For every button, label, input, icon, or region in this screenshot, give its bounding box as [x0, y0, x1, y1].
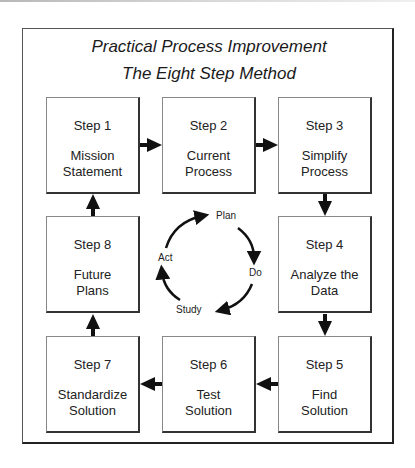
- step-name: Analyze the Data: [279, 267, 370, 299]
- cycle-label-study: Study: [176, 304, 202, 315]
- arrow-left-icon: [140, 377, 162, 391]
- cycle-label-do: Do: [249, 267, 262, 278]
- step-name-line1: Test: [163, 387, 254, 403]
- arrow-right-icon: [140, 138, 162, 152]
- pdsa-cycle: Plan Do Study Act: [140, 200, 280, 330]
- diagram-subtitle: The Eight Step Method: [22, 64, 396, 84]
- step-3-box: Step 3 Simplify Process: [278, 97, 372, 194]
- step-name-line1: Future: [47, 267, 138, 283]
- arrow-up-icon: [86, 194, 100, 216]
- step-name: Standardize Solution: [47, 387, 138, 419]
- step-8-box: Step 8 Future Plans: [46, 216, 140, 313]
- step-name-line1: Analyze the: [279, 267, 370, 283]
- step-number: Step 1: [47, 118, 138, 133]
- step-5-box: Step 5 Find Solution: [278, 336, 372, 433]
- step-4-box: Step 4 Analyze the Data: [278, 216, 372, 313]
- step-6-box: Step 6 Test Solution: [162, 336, 256, 433]
- step-number: Step 6: [163, 357, 254, 372]
- step-name-line1: Current: [163, 148, 254, 164]
- step-number: Step 8: [47, 237, 138, 252]
- step-name: Test Solution: [163, 387, 254, 419]
- cycle-label-act: Act: [158, 252, 172, 263]
- step-7-box: Step 7 Standardize Solution: [46, 336, 140, 433]
- step-name: Current Process: [163, 148, 254, 180]
- step-name-line2: Data: [279, 283, 370, 299]
- step-number: Step 7: [47, 357, 138, 372]
- step-1-box: Step 1 Mission Statement: [46, 97, 140, 194]
- arrow-left-icon: [256, 377, 278, 391]
- arrow-up-icon: [86, 314, 100, 336]
- step-name: Find Solution: [279, 387, 370, 419]
- cycle-arrows-icon: [140, 200, 280, 330]
- arrow-down-icon: [318, 194, 332, 216]
- step-name-line1: Simplify: [279, 148, 370, 164]
- arrow-down-icon: [318, 314, 332, 336]
- step-name-line1: Standardize: [47, 387, 138, 403]
- step-name-line2: Solution: [47, 403, 138, 419]
- arrow-right-icon: [256, 138, 278, 152]
- step-name-line2: Solution: [279, 403, 370, 419]
- step-2-box: Step 2 Current Process: [162, 97, 256, 194]
- step-name-line2: Process: [279, 164, 370, 180]
- step-number: Step 4: [279, 237, 370, 252]
- step-name: Mission Statement: [47, 148, 138, 180]
- step-name-line1: Find: [279, 387, 370, 403]
- step-name: Future Plans: [47, 267, 138, 299]
- top-rule: [0, 0, 415, 2]
- cycle-label-plan: Plan: [216, 210, 236, 221]
- step-number: Step 3: [279, 118, 370, 133]
- step-number: Step 5: [279, 357, 370, 372]
- step-name-line2: Plans: [47, 283, 138, 299]
- step-name-line1: Mission: [47, 148, 138, 164]
- step-name-line2: Statement: [47, 164, 138, 180]
- step-name: Simplify Process: [279, 148, 370, 180]
- step-name-line2: Process: [163, 164, 254, 180]
- step-name-line2: Solution: [163, 403, 254, 419]
- step-number: Step 2: [163, 118, 254, 133]
- diagram-title: Practical Process Improvement: [22, 37, 396, 57]
